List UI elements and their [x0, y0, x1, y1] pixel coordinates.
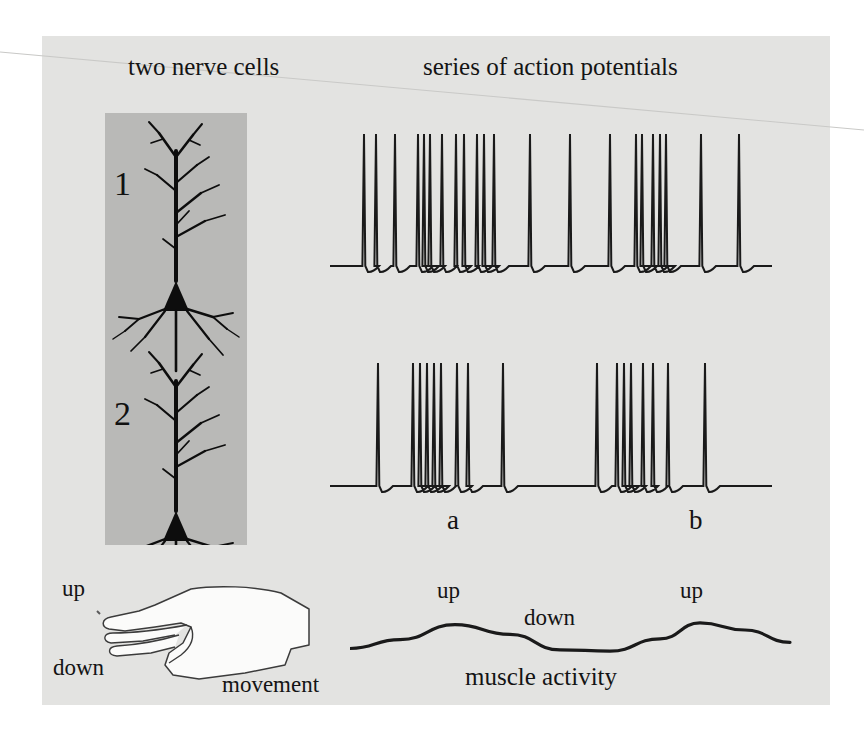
- hand-speck: [97, 611, 100, 614]
- pyramidal-neuron-1-shape: [113, 122, 239, 371]
- neuron-label-2: 2: [114, 395, 131, 433]
- heading-two-nerve-cells: two nerve cells: [128, 53, 279, 81]
- pyramidal-neuron-2-shape: [113, 352, 239, 545]
- muscle-label-up-first: up: [437, 578, 460, 604]
- hand-label-up: up: [62, 576, 85, 602]
- trace-label-a: a: [447, 505, 459, 536]
- spike-train-neuron-2-path: [330, 363, 772, 492]
- heading-series-of-action-potentials: series of action potentials: [423, 53, 678, 81]
- spike-train-neuron-1-path: [330, 134, 772, 272]
- trace-label-b: b: [689, 505, 703, 536]
- spike-train-neuron-2: [330, 358, 790, 508]
- muscle-activity-caption: muscle activity: [465, 663, 617, 691]
- muscle-label-up-second: up: [680, 578, 703, 604]
- spike-train-neuron-1: [330, 128, 790, 288]
- hand-label-down: down: [53, 655, 104, 681]
- hand-label-movement: movement: [222, 672, 319, 698]
- muscle-label-down: down: [524, 605, 575, 631]
- neuron-label-1: 1: [114, 165, 131, 203]
